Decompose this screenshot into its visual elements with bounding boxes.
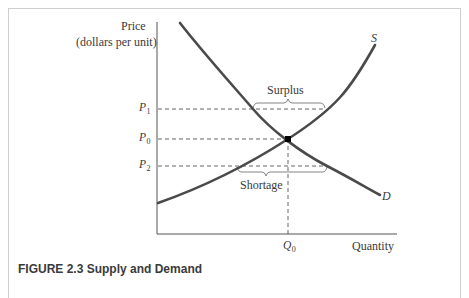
shortage-label: Shortage (240, 179, 283, 191)
p0-subscript: 0 (147, 137, 151, 146)
surplus-label: Surplus (267, 84, 304, 96)
figure-caption: FIGURE 2.3 Supply and Demand (18, 262, 202, 276)
figure-number: FIGURE 2.3 (18, 262, 83, 276)
figure-title: Supply and Demand (87, 262, 202, 276)
p2-letter: P (139, 158, 146, 170)
q0-subscript: 0 (292, 245, 296, 254)
p1-letter: P (139, 101, 146, 113)
y-axis-label-line2: (dollars per unit) (76, 36, 157, 48)
p2-label: P2 (139, 159, 151, 171)
equilibrium-point (285, 136, 291, 142)
p0-letter: P (139, 131, 146, 143)
p1-label: P1 (139, 102, 151, 114)
shortage-brace (237, 167, 327, 176)
y-axis-label-line1: Price (121, 20, 146, 32)
supply-curve-label: S (371, 32, 377, 44)
demand-curve-label: D (382, 190, 391, 202)
q0-letter: Q (283, 239, 291, 251)
q0-label: Q0 (283, 240, 296, 252)
p2-subscript: 2 (147, 164, 151, 173)
p1-subscript: 1 (147, 107, 151, 116)
x-axis-label: Quantity (352, 240, 394, 252)
surplus-brace (253, 99, 325, 108)
p0-label: P0 (139, 132, 151, 144)
